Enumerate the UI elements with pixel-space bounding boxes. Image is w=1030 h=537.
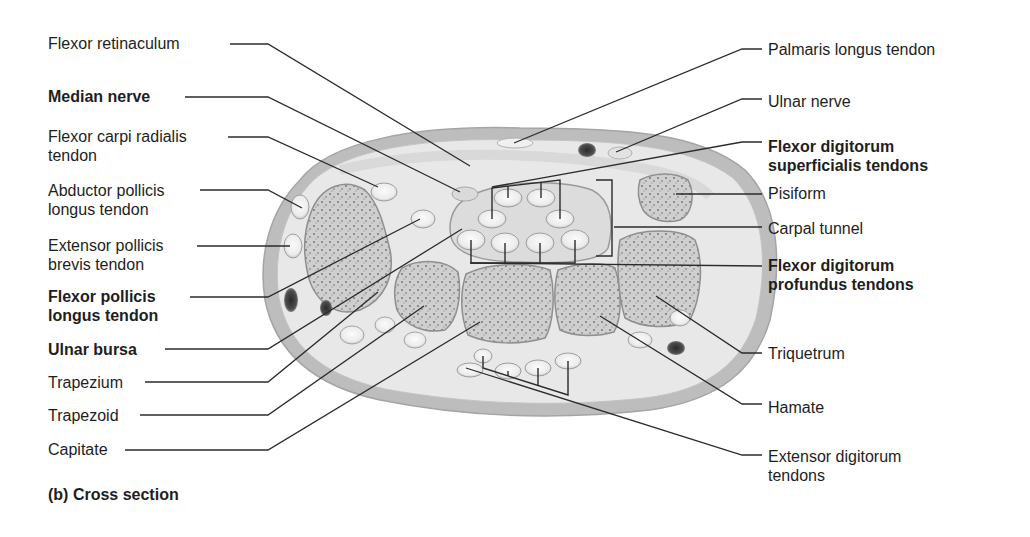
- label-pisiform: Pisiform: [768, 184, 826, 203]
- label-line: Ulnar nerve: [768, 92, 851, 111]
- label-ulnar-nerve: Ulnar nerve: [768, 92, 851, 111]
- label-line: Trapezoid: [48, 406, 119, 425]
- median-nerve-shape: [452, 187, 478, 201]
- label-line: Pisiform: [768, 184, 826, 203]
- label-line: superficialis tendons: [768, 156, 928, 175]
- label-flexor-retinaculum: Flexor retinaculum: [48, 34, 180, 53]
- label-line: Ulnar bursa: [48, 340, 137, 359]
- label-trapezoid: Trapezoid: [48, 406, 119, 425]
- label-carpal-tunnel: Carpal tunnel: [768, 219, 863, 238]
- label-line: Flexor digitorum: [768, 137, 928, 156]
- label-extensor-pollicis-brevis-tendon: Extensor pollicisbrevis tendon: [48, 236, 164, 274]
- figure-caption: (b) Cross section: [48, 486, 179, 504]
- label-line: Flexor carpi radialis: [48, 127, 187, 146]
- bone-hamate: [555, 264, 620, 336]
- label-palmaris-longus-tendon: Palmaris longus tendon: [768, 40, 935, 59]
- vessel-right: [667, 341, 685, 355]
- label-line: Triquetrum: [768, 344, 845, 363]
- label-line: Flexor retinaculum: [48, 34, 180, 53]
- label-line: Extensor digitorum: [768, 447, 901, 466]
- label-line: Flexor digitorum: [768, 256, 914, 275]
- label-line: Extensor pollicis: [48, 236, 164, 255]
- label-flexor-digitorum-superficialis-tendons: Flexor digitorumsuperficialis tendons: [768, 137, 928, 175]
- label-line: Carpal tunnel: [768, 219, 863, 238]
- label-line: Palmaris longus tendon: [768, 40, 935, 59]
- label-line: brevis tendon: [48, 255, 164, 274]
- label-line: longus tendon: [48, 200, 165, 219]
- bone-triquetrum: [618, 231, 700, 327]
- label-line: Flexor pollicis: [48, 287, 158, 306]
- label-flexor-carpi-radialis-tendon: Flexor carpi radialistendon: [48, 127, 187, 165]
- bone-pisiform: [638, 174, 692, 222]
- flexor-pollicis-longus-shape: [411, 210, 435, 228]
- label-trapezium: Trapezium: [48, 373, 123, 392]
- label-line: Median nerve: [48, 87, 150, 106]
- label-line: Hamate: [768, 398, 824, 417]
- label-flexor-digitorum-profundus-tendons: Flexor digitorumprofundus tendons: [768, 256, 914, 294]
- ulnar-artery-vessel: [578, 143, 596, 157]
- label-ulnar-bursa: Ulnar bursa: [48, 340, 137, 359]
- label-capitate: Capitate: [48, 440, 108, 459]
- label-line: profundus tendons: [768, 275, 914, 294]
- label-line: tendon: [48, 146, 187, 165]
- label-abductor-pollicis-longus-tendon: Abductor pollicislongus tendon: [48, 181, 165, 219]
- label-line: Abductor pollicis: [48, 181, 165, 200]
- label-line: tendons: [768, 466, 901, 485]
- label-line: Capitate: [48, 440, 108, 459]
- radial-artery-vessel: [284, 288, 298, 312]
- label-triquetrum: Triquetrum: [768, 344, 845, 363]
- label-hamate: Hamate: [768, 398, 824, 417]
- label-line: longus tendon: [48, 306, 158, 325]
- ulnar-nerve-shape: [608, 147, 632, 159]
- label-extensor-digitorum-tendons: Extensor digitorumtendons: [768, 447, 901, 485]
- bone-capitate: [462, 264, 553, 343]
- bone-trapezoid: [395, 262, 460, 331]
- label-line: Trapezium: [48, 373, 123, 392]
- label-median-nerve: Median nerve: [48, 87, 150, 106]
- label-flexor-pollicis-longus-tendon: Flexor pollicislongus tendon: [48, 287, 158, 325]
